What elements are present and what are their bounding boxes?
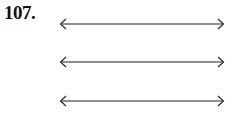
double-arrow-line-2 <box>59 56 225 68</box>
problem-number: 107. <box>4 2 35 24</box>
double-arrow-line-1 <box>59 18 225 30</box>
double-arrow-line-3 <box>59 95 225 107</box>
